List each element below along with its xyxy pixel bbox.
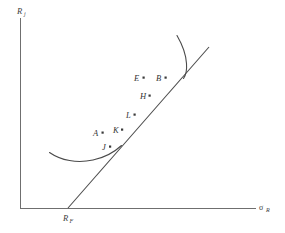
- portfolio-point-K-label: K: [112, 125, 120, 135]
- portfolio-point-H-dot: [149, 95, 151, 97]
- y-axis-label-subscript: j: [23, 11, 26, 17]
- x-axis-label: σ R: [259, 203, 270, 213]
- portfolio-point-K-dot: [121, 129, 123, 131]
- portfolio-point-L-label: L: [125, 110, 131, 120]
- portfolio-point-L-dot: [134, 114, 136, 116]
- chart-canvas: R j σ R R F E B H L: [0, 0, 285, 233]
- x-axis-label-sigma: σ: [259, 203, 264, 212]
- portfolio-point-J-label: J: [102, 142, 107, 152]
- risk-return-chart: R j σ R R F E B H L: [0, 0, 285, 233]
- portfolio-point-L: L: [125, 110, 136, 120]
- portfolio-point-H: H: [139, 91, 151, 101]
- portfolio-point-H-label: H: [139, 91, 147, 101]
- y-axis-label: R j: [16, 6, 26, 17]
- risk-free-rate-label-subscript: F: [69, 218, 74, 224]
- risk-free-rate-label-text: R: [62, 213, 69, 223]
- capital-market-line: [68, 47, 209, 208]
- x-axis-label-subscript: R: [265, 207, 270, 213]
- portfolio-point-J-dot: [109, 146, 111, 148]
- portfolio-point-E-dot: [143, 77, 145, 79]
- y-axis-label-text: R: [16, 6, 23, 16]
- risk-free-rate-label: R F: [62, 213, 74, 224]
- efficient-frontier-upper-arc: [177, 36, 187, 79]
- portfolio-point-B-label: B: [156, 73, 161, 83]
- portfolio-point-J: J: [102, 142, 111, 152]
- portfolio-point-A-label: A: [92, 128, 99, 138]
- portfolio-point-E-label: E: [133, 73, 140, 83]
- portfolio-point-K: K: [112, 125, 123, 135]
- portfolio-point-A: A: [92, 128, 104, 138]
- portfolio-point-E: E: [133, 73, 145, 83]
- portfolio-point-B: B: [156, 73, 167, 83]
- axes-group: [20, 18, 256, 209]
- portfolio-point-B-dot: [165, 77, 167, 79]
- portfolio-point-A-dot: [102, 132, 104, 134]
